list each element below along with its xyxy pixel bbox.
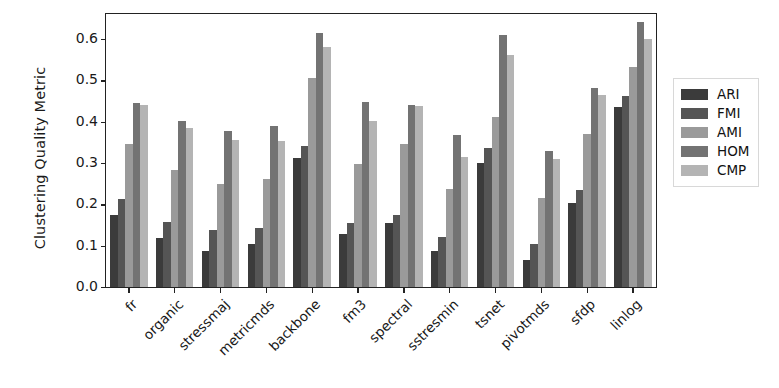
legend-item-ari[interactable]: ARI — [681, 85, 749, 104]
bar-ami — [263, 179, 271, 287]
y-tick-label: 0.3 — [76, 154, 98, 170]
x-tick-mark — [357, 287, 358, 293]
bar-group — [610, 14, 656, 287]
bar-fmi — [347, 223, 355, 287]
bar-ari — [110, 215, 118, 287]
bar-cmp — [323, 47, 331, 287]
legend-label: CMP — [717, 164, 746, 178]
bar-hom — [362, 102, 370, 287]
y-tick-label: 0.2 — [76, 195, 98, 211]
bar-ami — [125, 144, 133, 287]
bar-ari — [385, 223, 393, 287]
plot-area: 0.00.10.20.30.40.50.6 frorganicstressmaj… — [105, 13, 657, 288]
y-tick-label: 0.5 — [76, 71, 98, 87]
bar-fmi — [393, 215, 401, 287]
bar-cmp — [278, 141, 286, 287]
bar-group — [564, 14, 610, 287]
legend-swatch-icon — [681, 146, 708, 157]
bar-ari — [248, 244, 256, 287]
bar-hom — [133, 103, 141, 287]
bar-fmi — [622, 96, 630, 287]
legend-swatch-icon — [681, 89, 708, 100]
bar-ami — [171, 170, 179, 287]
bar-cmp — [369, 121, 377, 287]
bar-fmi — [255, 228, 263, 287]
x-tick-label: linlog — [607, 296, 644, 333]
legend-label: FMI — [717, 107, 740, 121]
bar-fmi — [301, 146, 309, 287]
bar-ari — [156, 238, 164, 287]
x-tick-label: fm3 — [339, 296, 369, 326]
bar-hom — [637, 22, 645, 287]
bar-cmp — [140, 105, 148, 287]
bar-group — [473, 14, 519, 287]
bar-ari — [339, 234, 347, 287]
legend-label: AMI — [717, 126, 742, 140]
bar-group — [106, 14, 152, 287]
bar-fmi — [209, 230, 217, 287]
legend-item-fmi[interactable]: FMI — [681, 104, 749, 123]
bar-hom — [591, 88, 599, 287]
bar-fmi — [530, 244, 538, 287]
bar-ami — [583, 134, 591, 287]
bar-hom — [178, 121, 186, 287]
legend-item-hom[interactable]: HOM — [681, 142, 749, 161]
x-tick-label: fr — [122, 296, 141, 315]
y-tick-label: 0.6 — [76, 30, 98, 46]
bar-ari — [477, 163, 485, 287]
bar-groups — [106, 14, 656, 287]
legend-item-cmp[interactable]: CMP — [681, 161, 749, 180]
bar-ari — [431, 251, 439, 287]
bar-hom — [224, 131, 232, 287]
y-tick-label: 0.4 — [76, 113, 98, 129]
legend: ARIFMIAMIHOMCMP — [673, 78, 759, 187]
y-axis-title: Clustering Quality Metric — [32, 24, 48, 292]
bar-fmi — [484, 148, 492, 287]
bar-group — [243, 14, 289, 287]
bar-hom — [408, 105, 416, 287]
y-tick-mark — [101, 287, 107, 288]
legend-swatch-icon — [681, 108, 708, 119]
x-tick-mark — [220, 287, 221, 293]
x-tick-label: organic — [139, 296, 186, 343]
bar-hom — [453, 135, 461, 287]
bar-cmp — [415, 106, 423, 287]
x-tick-mark — [495, 287, 496, 293]
bar-cmp — [186, 128, 194, 287]
bar-ari — [614, 107, 622, 287]
bar-cmp — [507, 55, 515, 287]
bar-hom — [545, 151, 553, 288]
bar-ami — [354, 164, 362, 287]
bar-chart-figure: Clustering Quality Metric 0.00.10.20.30.… — [0, 0, 779, 388]
bar-ami — [217, 184, 225, 287]
bar-ami — [400, 144, 408, 287]
x-tick-mark — [128, 287, 129, 293]
bar-ari — [202, 251, 210, 287]
bar-ami — [538, 198, 546, 287]
bar-ami — [308, 78, 316, 287]
legend-item-ami[interactable]: AMI — [681, 123, 749, 142]
legend-label: HOM — [717, 145, 749, 159]
bar-hom — [270, 126, 278, 287]
bar-cmp — [553, 159, 561, 287]
bar-cmp — [232, 140, 240, 287]
bar-ami — [446, 189, 454, 287]
bar-ari — [568, 203, 576, 287]
bar-group — [289, 14, 335, 287]
x-tick-mark — [266, 287, 267, 293]
x-tick-mark — [541, 287, 542, 293]
bar-group — [518, 14, 564, 287]
bar-ami — [492, 117, 500, 287]
bar-group — [427, 14, 473, 287]
x-tick-mark — [587, 287, 588, 293]
x-tick-mark — [632, 287, 633, 293]
bar-fmi — [576, 190, 584, 287]
legend-swatch-icon — [681, 127, 708, 138]
bar-group — [381, 14, 427, 287]
x-tick-mark — [403, 287, 404, 293]
x-tick-mark — [174, 287, 175, 293]
x-tick-label: pivotmds — [497, 296, 553, 352]
x-tick-mark — [449, 287, 450, 293]
bar-group — [198, 14, 244, 287]
bar-hom — [316, 33, 324, 287]
